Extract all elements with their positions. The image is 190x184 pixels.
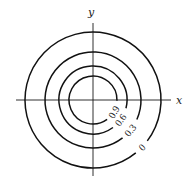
- y-axis-label: y: [87, 6, 95, 19]
- contour-label-0: 0: [136, 142, 147, 153]
- x-axis-label: x: [176, 94, 183, 107]
- contour-diagram: x y 00.30.60.9: [0, 0, 190, 184]
- contour-label-0-3: 0.3: [122, 122, 138, 139]
